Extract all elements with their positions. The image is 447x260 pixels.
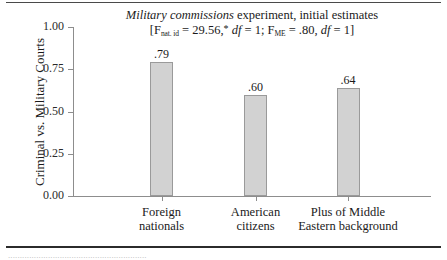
chart-subtitle-stats: [Fnat. id = 29.56,* df = 1; FME = .80, d… xyxy=(73,22,431,41)
y-tick-mark xyxy=(68,69,74,70)
chart-title-italic-part: Military commissions xyxy=(126,8,234,22)
bar xyxy=(244,95,267,196)
stat-value-1: = 29.56, xyxy=(179,23,224,37)
bar xyxy=(337,88,360,196)
chart-title: Military commissions experiment, initial… xyxy=(73,8,431,22)
x-tick-mark xyxy=(348,196,349,201)
stat-df-label-1: df xyxy=(232,23,242,37)
x-tick-mark xyxy=(162,196,163,201)
chart-figure: Military commissions experiment, initial… xyxy=(0,0,447,260)
y-tick-mark xyxy=(68,112,74,113)
bar-value-label: .60 xyxy=(226,80,286,95)
bar-value-label: .64 xyxy=(318,73,378,88)
page-rule-top xyxy=(6,2,441,3)
chart-title-block: Military commissions experiment, initial… xyxy=(73,8,431,41)
page-rule-bottom xyxy=(6,246,441,248)
y-tick-label: 0.25 xyxy=(20,146,64,161)
y-tick-label: 0.75 xyxy=(20,61,64,76)
stat-subscript-nat-id: nat. id xyxy=(161,29,179,38)
x-axis-line xyxy=(73,196,431,197)
y-tick-mark xyxy=(68,196,74,197)
bar-value-label: .79 xyxy=(132,47,192,62)
y-tick-label: 1.00 xyxy=(20,19,64,34)
stat-open-bracket: [F xyxy=(150,23,161,37)
y-tick-mark xyxy=(68,154,74,155)
stat-df-value-2: = 1] xyxy=(330,23,354,37)
x-category-label-line: Plus of Middle xyxy=(283,205,413,219)
y-tick-mark xyxy=(68,27,74,28)
y-tick-label: 0.50 xyxy=(20,104,64,119)
stat-df-value-1: = 1; F xyxy=(241,23,274,37)
stat-subscript-me: ME xyxy=(275,29,286,38)
clipped-caption-text: ........................................… xyxy=(8,250,439,259)
x-category-label: Plus of MiddleEastern background xyxy=(283,205,413,233)
stat-value-2: = .80, xyxy=(286,23,321,37)
chart-title-rest: experiment, initial estimates xyxy=(234,8,378,22)
x-tick-mark xyxy=(256,196,257,201)
x-category-label-line: Eastern background xyxy=(283,219,413,233)
bar xyxy=(150,62,173,196)
y-tick-label: 0.00 xyxy=(20,188,64,203)
